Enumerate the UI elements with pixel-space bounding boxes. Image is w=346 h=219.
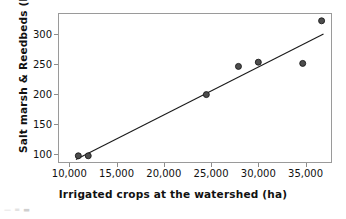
data-point (203, 92, 209, 98)
scatter-chart-figure: Salt marsh & Reedbeds (ha) 1001502002503… (0, 0, 346, 219)
x-tick-mark (258, 163, 259, 167)
data-point (85, 153, 91, 159)
y-tick-mark (54, 124, 58, 125)
y-tick-label: 300 (6, 29, 52, 40)
data-point (300, 60, 306, 66)
y-axis-tick-labels: 100150200250300 (0, 0, 52, 219)
y-tick-mark (54, 94, 58, 95)
y-tick-mark (54, 154, 58, 155)
y-tick-mark (54, 34, 58, 35)
plot-canvas (58, 13, 332, 163)
x-tick-mark (211, 163, 212, 167)
y-tick-label: 250 (6, 59, 52, 70)
x-axis-tick-labels: 10,00015,00020,00025,00030,00035,000 (0, 168, 346, 186)
y-tick-label: 150 (6, 119, 52, 130)
x-tick-mark (117, 163, 118, 167)
data-point (255, 59, 261, 65)
crop-edge-artifact: — = ▬ (4, 206, 30, 214)
x-tick-mark (164, 163, 165, 167)
y-tick-mark (54, 64, 58, 65)
y-tick-label: 100 (6, 149, 52, 160)
x-axis-title: Irrigated crops at the watershed (ha) (0, 188, 346, 200)
x-tick-mark (69, 163, 70, 167)
y-tick-label: 200 (6, 89, 52, 100)
data-point (319, 18, 325, 24)
trendline (76, 34, 324, 159)
data-points (75, 18, 324, 159)
trendline-segment (76, 34, 324, 159)
x-tick-mark (306, 163, 307, 167)
x-tick-label: 35,000 (271, 168, 341, 179)
data-point (75, 153, 81, 159)
data-point (235, 63, 241, 69)
